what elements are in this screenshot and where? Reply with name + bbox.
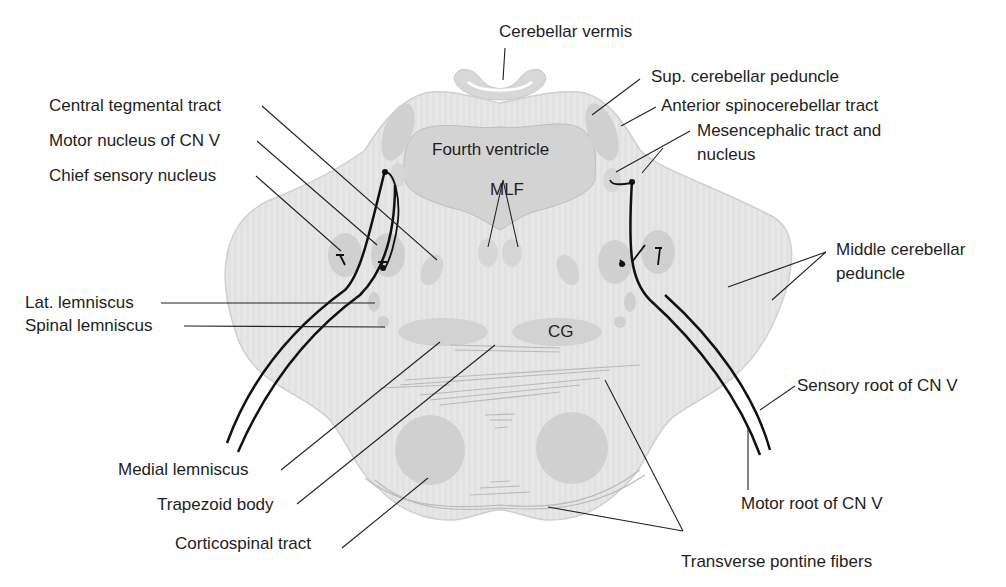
label-sup-cerebellar-peduncle: Sup. cerebellar peduncle <box>651 67 839 87</box>
label-lat-lemniscus: Lat. lemniscus <box>25 293 134 313</box>
label-motor-nucleus-cn-v: Motor nucleus of CN V <box>49 131 220 151</box>
label-middle-cerebellar-line1: Middle cerebellar <box>836 240 965 260</box>
label-anterior-spinocerebellar-tract: Anterior spinocerebellar tract <box>661 96 878 116</box>
label-cerebellar-vermis: Cerebellar vermis <box>499 22 632 42</box>
label-central-tegmental-tract: Central tegmental tract <box>49 96 221 116</box>
label-sensory-root-cn-v: Sensory root of CN V <box>797 376 958 396</box>
pons-diagram: Fourth ventricle MLF CG Central tegmenta… <box>0 0 1006 587</box>
label-corticospinal-tract: Corticospinal tract <box>175 534 311 554</box>
label-middle-cerebellar-line2: peduncle <box>836 264 905 284</box>
label-mesencephalic-tract-line2: nucleus <box>697 145 756 165</box>
label-mlf: MLF <box>490 180 524 200</box>
label-trapezoid-body: Trapezoid body <box>157 495 274 515</box>
label-medial-lemniscus: Medial lemniscus <box>118 460 248 480</box>
label-chief-sensory-nucleus: Chief sensory nucleus <box>49 166 216 186</box>
label-fourth-ventricle: Fourth ventricle <box>432 140 549 160</box>
label-spinal-lemniscus: Spinal lemniscus <box>25 316 153 336</box>
label-mesencephalic-tract-line1: Mesencephalic tract and <box>697 121 881 141</box>
label-cg: CG <box>548 322 574 342</box>
label-motor-root-cn-v: Motor root of CN V <box>741 494 883 514</box>
label-transverse-pontine-fibers: Transverse pontine fibers <box>681 552 872 572</box>
